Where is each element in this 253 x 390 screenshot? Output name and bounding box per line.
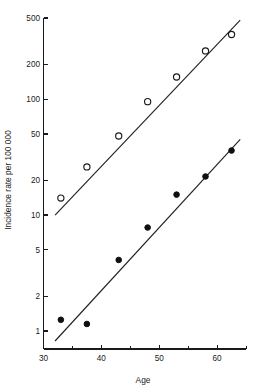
axes-group bbox=[44, 18, 247, 349]
x-tick-label-40: 40 bbox=[97, 354, 107, 363]
regression-lines bbox=[55, 20, 240, 341]
data-point-open-circles-0 bbox=[58, 195, 64, 201]
incidence-rate-vs-age-chart: 125102050100200500 30405060 Age Incidenc… bbox=[0, 0, 253, 390]
x-tick-label-50: 50 bbox=[155, 354, 165, 363]
y-tick-label-500: 500 bbox=[26, 14, 40, 23]
data-point-open-circles-6 bbox=[228, 31, 234, 37]
y-tick-label-50: 50 bbox=[31, 130, 41, 139]
data-point-filled-circles-0 bbox=[58, 317, 64, 323]
data-point-filled-circles-5 bbox=[203, 174, 209, 180]
regression-line-open-circles bbox=[55, 20, 240, 215]
data-point-open-circles-1 bbox=[84, 164, 90, 170]
y-tick-label-20: 20 bbox=[31, 176, 41, 185]
x-axis-ticks bbox=[44, 345, 247, 350]
data-point-open-circles-5 bbox=[202, 48, 208, 54]
data-point-filled-circles-6 bbox=[229, 148, 235, 154]
data-point-filled-circles-2 bbox=[116, 257, 122, 263]
y-tick-label-10: 10 bbox=[31, 211, 41, 220]
data-point-open-circles-4 bbox=[173, 74, 179, 80]
regression-line-filled-circles bbox=[55, 139, 240, 341]
data-point-filled-circles-4 bbox=[174, 192, 180, 198]
x-tick-label-30: 30 bbox=[39, 354, 49, 363]
y-tick-label-200: 200 bbox=[26, 60, 40, 69]
data-point-filled-circles-3 bbox=[145, 225, 151, 231]
figure-container: 125102050100200500 30405060 Age Incidenc… bbox=[0, 0, 253, 390]
data-point-open-circles-2 bbox=[116, 133, 122, 139]
y-tick-label-1: 1 bbox=[35, 327, 40, 336]
x-axis-tick-labels: 30405060 bbox=[39, 354, 222, 363]
x-axis-title: Age bbox=[136, 375, 151, 385]
y-axis-ticks bbox=[44, 18, 48, 331]
y-axis-title: Incidence rate per 100 000 bbox=[3, 130, 13, 230]
y-tick-label-5: 5 bbox=[35, 246, 40, 255]
data-point-open-circles-3 bbox=[145, 99, 151, 105]
data-point-filled-circles-1 bbox=[84, 321, 90, 327]
y-axis-tick-labels: 125102050100200500 bbox=[26, 14, 40, 336]
x-tick-label-60: 60 bbox=[213, 354, 223, 363]
y-tick-label-100: 100 bbox=[26, 95, 40, 104]
y-tick-label-2: 2 bbox=[35, 292, 40, 301]
data-points-group bbox=[58, 31, 235, 326]
